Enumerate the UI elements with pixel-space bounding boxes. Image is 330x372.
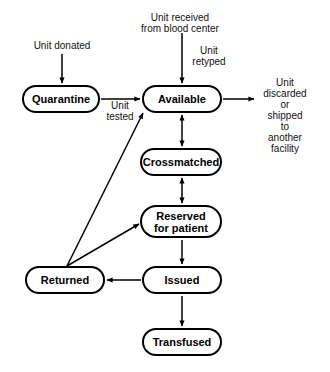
node-issued[interactable]: Issued bbox=[142, 266, 222, 294]
node-returned-label: Returned bbox=[41, 274, 89, 286]
label-unit-tested: Unit tested bbox=[106, 100, 133, 122]
label-unit-discarded-or-shipped: Unit discarded or shipped to another fac… bbox=[263, 77, 308, 154]
node-available[interactable]: Available bbox=[142, 85, 222, 113]
node-quarantine[interactable]: Quarantine bbox=[22, 85, 100, 113]
node-crossmatched[interactable]: Crossmatched bbox=[140, 148, 222, 176]
node-reserved-for-patient[interactable]: Reserved for patient bbox=[140, 205, 222, 238]
node-transfused-label: Transfused bbox=[153, 336, 212, 348]
label-unit-received-from-blood-center: Unit received from blood center bbox=[141, 12, 219, 34]
node-transfused[interactable]: Transfused bbox=[142, 328, 222, 356]
node-available-label: Available bbox=[158, 93, 206, 105]
node-reserved-for-patient-label: Reserved for patient bbox=[154, 210, 208, 234]
node-returned[interactable]: Returned bbox=[25, 266, 105, 294]
label-unit-donated: Unit donated bbox=[34, 40, 91, 51]
edge-layer bbox=[0, 0, 330, 372]
node-crossmatched-label: Crossmatched bbox=[143, 156, 219, 168]
label-unit-retyped: Unit retyped bbox=[192, 45, 225, 67]
state-diagram: Quarantine Available Crossmatched Reserv… bbox=[0, 0, 330, 372]
node-quarantine-label: Quarantine bbox=[32, 93, 90, 105]
node-issued-label: Issued bbox=[165, 274, 200, 286]
